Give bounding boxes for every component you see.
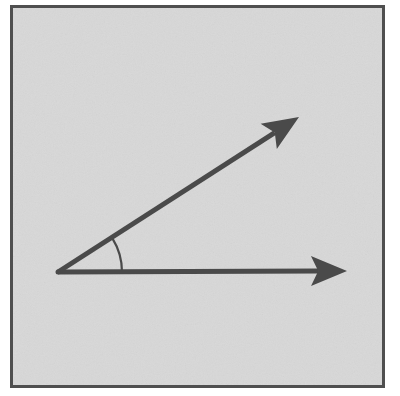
vertex-point xyxy=(56,270,61,275)
horizontal-ray-shaft xyxy=(58,271,318,272)
panel-texture xyxy=(12,7,384,387)
angle-diagram-figure xyxy=(0,0,400,396)
angle-diagram-canvas xyxy=(0,0,400,396)
